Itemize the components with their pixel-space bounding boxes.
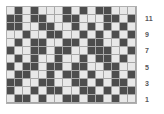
heatmap-cell [55,63,63,71]
heatmap-cell [88,7,96,15]
heatmap-cell [128,63,136,71]
heatmap-cell [88,87,96,95]
heatmap-cell [55,39,63,47]
heatmap-cell [55,23,63,31]
heatmap-cell [104,87,112,95]
heatmap-cell [88,23,96,31]
heatmap-cell [7,87,15,95]
heatmap-cell [7,39,15,47]
heatmap-cell [15,71,23,79]
heatmap-cell [55,31,63,39]
heatmap-cell [63,15,71,23]
heatmap-cell [88,47,96,55]
heatmap-cell [55,7,63,15]
heatmap-cell [31,71,39,79]
heatmap-cell [88,15,96,23]
heatmap-cell [47,23,55,31]
heatmap-cell [96,87,104,95]
heatmap-cell [112,23,120,31]
heatmap-cell [31,23,39,31]
heatmap-cell [23,95,31,103]
heatmap-cell [104,79,112,87]
heatmap-cell [104,23,112,31]
heatmap-cell [120,95,128,103]
heatmap-cell [80,23,88,31]
heatmap-cell [112,79,120,87]
heatmap-cell [96,71,104,79]
heatmap-cell [112,47,120,55]
heatmap-cell [120,87,128,95]
heatmap-cell [7,71,15,79]
heatmap-cell [96,7,104,15]
heatmap-cell [55,71,63,79]
heatmap-cell [72,7,80,15]
heatmap-cell [47,47,55,55]
heatmap-cell [104,31,112,39]
heatmap-cell [80,71,88,79]
heatmap-cell [23,71,31,79]
heatmap-cell [120,71,128,79]
heatmap-cell [112,71,120,79]
heatmap-cell [128,47,136,55]
heatmap-cell [31,63,39,71]
y-axis-tick-label: 5 [145,64,149,71]
heatmap-cell [104,63,112,71]
heatmap-cell [88,63,96,71]
heatmap-cell [112,7,120,15]
heatmap-cell [23,31,31,39]
heatmap-cell [7,23,15,31]
heatmap-cell [96,15,104,23]
heatmap-cell [88,55,96,63]
heatmap-cell [120,55,128,63]
heatmap-cell [96,55,104,63]
heatmap-cell [39,71,47,79]
heatmap-cell [15,79,23,87]
heatmap-cell [39,95,47,103]
heatmap-cell [15,15,23,23]
heatmap-cell [63,87,71,95]
heatmap-cell [128,79,136,87]
heatmap-cell [47,71,55,79]
heatmap-cell [63,63,71,71]
heatmap-cell [63,55,71,63]
heatmap-cell [128,23,136,31]
heatmap-cell [80,95,88,103]
heatmap-cell [128,87,136,95]
heatmap-cell [39,39,47,47]
heatmap-cell [96,95,104,103]
heatmap-cell [63,47,71,55]
heatmap-cell [63,79,71,87]
heatmap-cell [80,31,88,39]
heatmap-cell [72,47,80,55]
heatmap-cell [72,31,80,39]
heatmap-cell [104,7,112,15]
heatmap-cell [7,95,15,103]
heatmap-cell [112,55,120,63]
heatmap-cell [80,63,88,71]
heatmap-cell [80,79,88,87]
heatmap-cell [31,39,39,47]
heatmap-cell [96,31,104,39]
heatmap-cell [96,39,104,47]
heatmap-cell [15,63,23,71]
y-axis-tick-label: 7 [145,47,149,54]
heatmap-cell [96,63,104,71]
heatmap-cell [104,71,112,79]
heatmap-cell [7,55,15,63]
heatmap-cell [63,39,71,47]
heatmap-cell [7,31,15,39]
heatmap-cell [72,79,80,87]
heatmap-cell [112,31,120,39]
heatmap-cell [80,39,88,47]
heatmap-cell [88,39,96,47]
heatmap-cell [104,39,112,47]
heatmap-cell [120,63,128,71]
heatmap-cell [39,15,47,23]
heatmap-cell [88,79,96,87]
y-axis: 1197531 [139,6,164,104]
heatmap-cell [23,7,31,15]
heatmap-cell [80,87,88,95]
heatmap-cell [104,47,112,55]
heatmap-cell [15,39,23,47]
heatmap-cell [55,55,63,63]
